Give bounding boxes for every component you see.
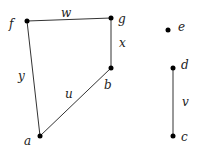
graph-diagram: wxyuvfgbaedc xyxy=(0,0,199,151)
node-label-b: b xyxy=(104,78,112,92)
node-label-c: c xyxy=(181,130,188,144)
edge-u xyxy=(40,68,111,136)
node-d xyxy=(171,66,176,71)
edge-label-x: x xyxy=(119,36,126,50)
node-label-d: d xyxy=(181,58,189,72)
edge-label-u: u xyxy=(65,87,73,101)
node-e xyxy=(166,28,171,33)
node-g xyxy=(109,16,114,21)
edge-label-v: v xyxy=(182,95,189,109)
node-label-e: e xyxy=(178,20,185,34)
node-f xyxy=(25,19,30,24)
node-b xyxy=(109,66,114,71)
edge-label-y: y xyxy=(17,69,25,83)
graph-svg: wxyuvfgbaedc xyxy=(0,0,199,151)
edge-label-w: w xyxy=(61,6,72,20)
node-label-f: f xyxy=(8,17,16,31)
node-a xyxy=(38,134,43,139)
node-c xyxy=(171,134,176,139)
node-label-a: a xyxy=(24,134,31,148)
edge-y xyxy=(27,21,40,136)
node-label-g: g xyxy=(118,12,126,26)
